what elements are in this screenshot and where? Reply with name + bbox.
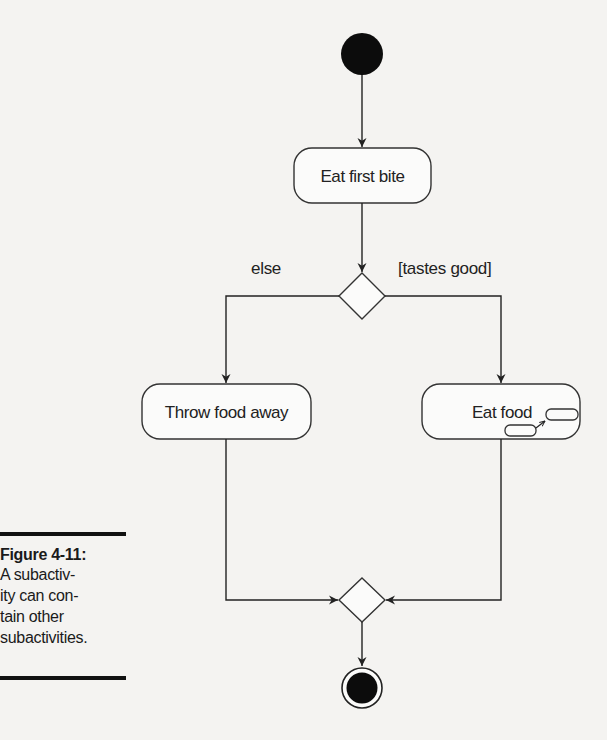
action-throw-food-away: Throw food away	[142, 384, 311, 439]
edge-else-to-throw-food-away	[226, 296, 339, 383]
merge-node	[339, 578, 385, 622]
action-label: Eat food	[472, 403, 532, 422]
decision-node	[339, 273, 385, 319]
guard-tastes-good: [tastes good]	[398, 259, 491, 278]
edge-eat-food-to-merge	[386, 439, 501, 600]
action-eat-first-bite: Eat first bite	[294, 148, 431, 203]
action-label: Eat first bite	[320, 167, 404, 186]
activity-diagram: Eat first bite else [tastes good] Throw …	[0, 0, 607, 740]
edge-tastes-good-to-eat-food	[385, 296, 501, 383]
final-node	[342, 668, 382, 708]
subactivity-eat-food: Eat food	[422, 384, 580, 439]
initial-node	[341, 33, 383, 75]
guard-else: else	[251, 259, 281, 278]
edge-throw-food-away-to-merge	[226, 439, 338, 600]
action-label: Throw food away	[165, 403, 289, 422]
